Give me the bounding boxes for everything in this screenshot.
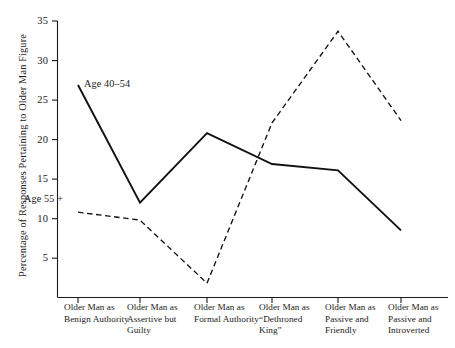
y-tick-label-20: 20 (26, 135, 48, 146)
y-tick-label-25: 25 (26, 95, 48, 106)
series-line-age-40-54 (78, 85, 401, 230)
x-axis-tick-labels: Older Man as Benign Authority Older Man … (0, 302, 455, 348)
chart-figure: 35 30 25 20 15 10 5 Percentage of Respon… (0, 0, 455, 348)
x-tick-label-2: Older Man as Formal Authority (194, 302, 260, 325)
x-tick-label-4: Older Man as Passive and Friendly (325, 302, 391, 337)
y-tick-label-10: 10 (26, 214, 48, 225)
y-tick-label-15: 15 (26, 174, 48, 185)
series-label-age-40-54: Age 40–54 (84, 79, 130, 89)
line-chart-plot (0, 0, 455, 348)
y-tick-marks (52, 21, 58, 258)
y-tick-label-35: 35 (26, 16, 48, 27)
y-tick-label-5: 5 (26, 253, 48, 264)
series-line-age-55-plus (78, 31, 401, 283)
x-tick-label-0: Older Man as Benign Authority (64, 302, 130, 325)
x-tick-label-1: Older Man as Assertive but Guilty (127, 302, 193, 337)
x-tick-label-3: Older Man as “Dethroned King” (259, 302, 325, 337)
y-axis-title: Percentage of Responses Pertaining to Ol… (17, 6, 28, 306)
series-label-age-55-plus: Age 55 + (24, 194, 63, 204)
x-tick-label-5: Older Man as Passive and Introverted (388, 302, 454, 337)
y-tick-label-30: 30 (26, 56, 48, 67)
